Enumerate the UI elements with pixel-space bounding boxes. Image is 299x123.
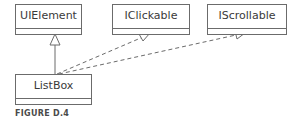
class-name: IClickable (113, 5, 189, 29)
class-uielement: UIElement (15, 4, 82, 35)
class-name: ListBox (16, 75, 91, 99)
figure-caption: FIGURE D.4 (15, 109, 69, 118)
generalization-arrowhead-icon (50, 34, 60, 45)
class-iclickable: IClickable (112, 4, 190, 35)
class-name: IScrollable (208, 5, 286, 29)
realization-line-iclickable (57, 37, 143, 74)
class-compartment (16, 29, 81, 34)
class-listbox: ListBox (15, 74, 92, 105)
class-iscrollable: IScrollable (207, 4, 287, 35)
class-compartment (208, 29, 286, 34)
class-compartment (16, 99, 91, 104)
class-compartment (113, 29, 189, 34)
realization-line-iscrollable (59, 35, 236, 74)
class-name: UIElement (16, 5, 81, 29)
